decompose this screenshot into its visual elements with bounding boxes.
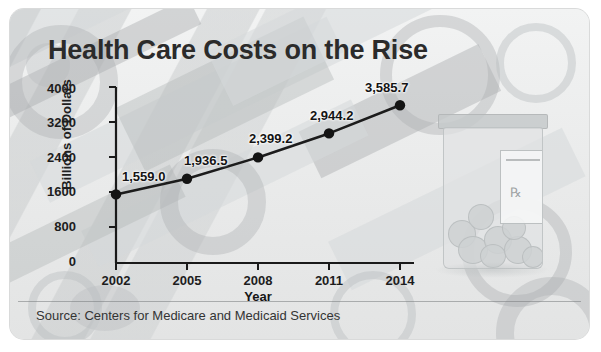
plot-area: Billions of Dollars 4000 3200 2400 1600 … (10, 9, 589, 339)
data-point-label: 1,559.0 (122, 169, 165, 184)
data-point-label: 3,585.7 (365, 80, 408, 95)
x-tick-label: 2005 (157, 273, 217, 288)
data-point-marker (182, 174, 192, 184)
chart-figure: ℞ Health Care Costs on the Rise Billions… (0, 0, 601, 352)
data-point-marker (324, 128, 334, 138)
data-point-marker (395, 100, 405, 110)
source-caption: Source: Centers for Medicare and Medicai… (36, 308, 340, 323)
data-point-label: 2,944.2 (310, 108, 353, 123)
data-point-marker (111, 189, 121, 199)
data-point-label: 1,936.5 (184, 153, 227, 168)
data-point-marker (253, 152, 263, 162)
data-point-label: 2,399.2 (249, 131, 292, 146)
plot-svg (10, 9, 589, 339)
x-tick-label: 2011 (299, 273, 359, 288)
source-divider (18, 301, 581, 302)
x-tick-label: 2014 (370, 273, 430, 288)
poster-card: ℞ Health Care Costs on the Rise Billions… (10, 9, 589, 339)
x-tick-label: 2008 (228, 273, 288, 288)
x-tick-label: 2002 (86, 273, 146, 288)
